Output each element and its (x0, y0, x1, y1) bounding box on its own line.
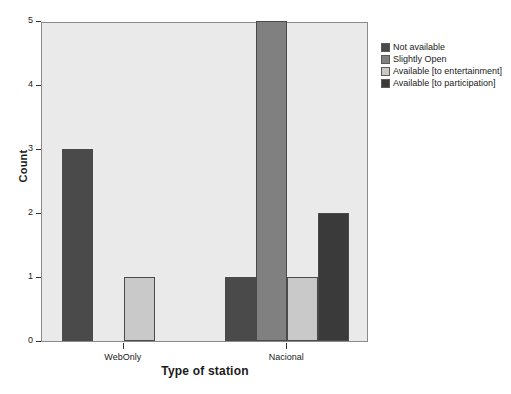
bar-chart: Count 012345 WebOnlyNacional Type of sta… (0, 0, 511, 394)
y-tick-label: 2 (7, 207, 33, 217)
y-tick-mark (36, 277, 41, 278)
y-tick-label: 5 (7, 15, 33, 25)
y-tick-label: 1 (7, 271, 33, 281)
y-tick-mark (36, 149, 41, 150)
y-tick-mark (36, 213, 41, 214)
y-tick-label: 4 (7, 79, 33, 89)
x-tick-mark (286, 343, 287, 349)
y-tick-mark (36, 21, 41, 22)
bar (62, 149, 93, 341)
legend-item-label: Not available (393, 42, 445, 53)
legend-swatch-icon (381, 43, 390, 52)
x-tick-label: WebOnly (73, 352, 173, 362)
y-tick-mark (36, 85, 41, 86)
x-tick-mark (123, 343, 124, 349)
x-tick-label: Nacional (236, 352, 336, 362)
plot-area (41, 22, 368, 342)
legend-item[interactable]: Slightly Open (381, 53, 509, 65)
legend-item-label: Slightly Open (393, 54, 447, 65)
legend-swatch-icon (381, 67, 390, 76)
bar (318, 213, 349, 341)
y-tick-mark (36, 341, 41, 342)
y-axis-title: Count (17, 126, 29, 206)
legend-swatch-icon (381, 55, 390, 64)
legend-swatch-icon (381, 79, 390, 88)
bar (287, 277, 318, 341)
bar (225, 277, 256, 341)
bar (124, 277, 155, 341)
legend-item[interactable]: Available [to entertainment] (381, 65, 509, 77)
legend-item[interactable]: Available [to participation] (381, 77, 509, 89)
legend: Not availableSlightly OpenAvailable [to … (381, 41, 509, 89)
legend-item-label: Available [to participation] (393, 78, 495, 89)
legend-item[interactable]: Not available (381, 41, 509, 53)
legend-item-label: Available [to entertainment] (393, 66, 502, 77)
y-tick-label: 3 (7, 143, 33, 153)
x-axis-title: Type of station (40, 364, 370, 378)
y-tick-label: 0 (7, 335, 33, 345)
bar (256, 21, 287, 341)
